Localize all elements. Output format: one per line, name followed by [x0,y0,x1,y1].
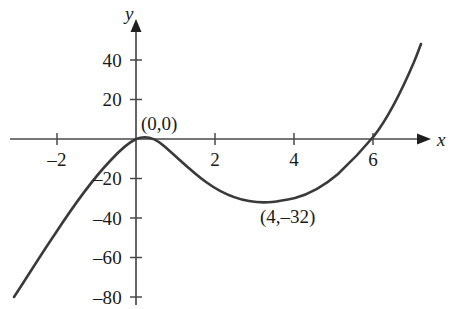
x-tick-label-2: 2 [198,150,232,169]
y-axis-label: y [125,4,133,23]
x-tick-label-minus-2: –2 [35,150,79,169]
y-tick-label-minus-60: –60 [70,248,122,267]
y-tick-label-minus-40: –40 [70,209,122,228]
y-tick-label-40: 40 [78,51,122,70]
x-tick-label-4: 4 [277,150,311,169]
origin-point-label: (0,0) [141,114,177,133]
x-axis-label: x [437,130,445,149]
cubic-graph-figure: y x 40 20 –20 –40 –60 –80 –2 2 4 6 (0,0)… [0,0,457,309]
y-tick-label-20: 20 [78,90,122,109]
minimum-point-label: (4,–32) [260,207,315,226]
y-tick-label-minus-80: –80 [70,288,122,307]
x-axis-arrow-icon [417,134,431,145]
y-tick-label-minus-20: –20 [70,169,122,188]
x-tick-label-6: 6 [356,150,390,169]
y-axis [131,19,142,305]
